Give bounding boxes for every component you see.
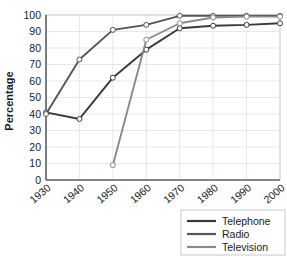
y-tick-label: 0 — [35, 174, 41, 186]
legend-label-telephone: Telephone — [222, 215, 271, 227]
data-point-telephone — [110, 75, 115, 80]
data-point-telephone — [211, 23, 216, 28]
data-point-radio — [144, 22, 149, 27]
data-point-radio — [44, 112, 49, 117]
data-point-telephone — [244, 22, 249, 27]
data-point-radio — [177, 13, 182, 18]
data-point-radio — [77, 57, 82, 62]
y-tick-label: 80 — [29, 42, 41, 54]
y-tick-label: 40 — [29, 108, 41, 120]
y-tick-label: 100 — [23, 9, 41, 21]
y-tick-label: 20 — [29, 141, 41, 153]
line-chart: 0102030405060708090100 19301940195019601… — [0, 0, 287, 257]
data-point-telephone — [278, 21, 283, 26]
legend-label-television: Television — [222, 241, 268, 253]
chart-canvas: 0102030405060708090100 19301940195019601… — [0, 0, 287, 257]
y-axis-title: Percentage — [3, 71, 15, 130]
data-point-telephone — [177, 26, 182, 31]
data-point-telephone — [77, 116, 82, 121]
data-point-television — [177, 21, 182, 26]
y-tick-label: 30 — [29, 124, 41, 136]
y-tick-label: 70 — [29, 58, 41, 70]
data-point-television — [110, 163, 115, 168]
chart-legend: TelephoneRadioTelevision — [181, 210, 285, 255]
data-point-radio — [110, 27, 115, 32]
y-tick-label: 90 — [29, 25, 41, 37]
data-point-television — [211, 15, 216, 20]
data-point-television — [144, 37, 149, 42]
data-point-television — [278, 14, 283, 19]
y-tick-label: 10 — [29, 157, 41, 169]
y-tick-label: 60 — [29, 75, 41, 87]
data-point-television — [244, 14, 249, 19]
y-tick-label: 50 — [29, 91, 41, 103]
legend-label-radio: Radio — [222, 228, 250, 240]
